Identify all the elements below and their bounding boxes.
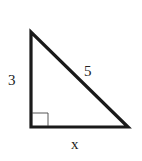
- label-hypotenuse: 5: [84, 63, 92, 79]
- label-horizontal-leg: x: [71, 136, 79, 152]
- triangle-diagram: 3 5 x: [0, 0, 142, 161]
- label-vertical-leg: 3: [8, 72, 16, 88]
- right-angle-marker: [32, 113, 48, 126]
